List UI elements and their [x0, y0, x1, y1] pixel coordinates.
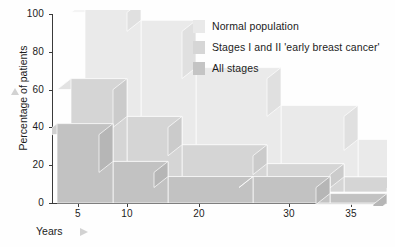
legend-swatch-normal-population [193, 20, 205, 33]
y-tick-label: 80 [14, 47, 44, 57]
y-tick-label: 40 [14, 122, 44, 132]
y-tick-label: 0 [14, 198, 44, 208]
y-tick-label: 100 [14, 9, 44, 19]
legend-item: Normal population [193, 17, 393, 35]
chart-legend: Normal population Stages I and II 'early… [193, 17, 393, 80]
legend-label: Normal population [212, 20, 299, 32]
legend-swatch-all-stages [193, 62, 205, 75]
bar-front-face [168, 177, 253, 203]
chart-container: Percentage of patients Years 02040608010… [0, 0, 395, 247]
bar-front-face [344, 177, 387, 192]
x-tick-label: 30 [274, 209, 304, 219]
y-tick-label: 60 [14, 85, 44, 95]
x-tick-label: 10 [112, 209, 142, 219]
x-tick-label: 35 [336, 209, 366, 219]
bar-front-face [358, 139, 387, 181]
legend-label: All stages [212, 62, 259, 74]
x-tick-label: 20 [184, 209, 214, 219]
legend-item: Stages I and II 'early breast cancer' [193, 38, 393, 56]
x-axis-title: Years [36, 225, 62, 237]
x-axis-arrow-icon [80, 228, 88, 236]
x-tick-label: 5 [63, 209, 93, 219]
y-tick-label: 20 [14, 160, 44, 170]
legend-swatch-stages-i-and-ii [193, 41, 205, 54]
legend-item: All stages [193, 59, 393, 77]
legend-label: Stages I and II 'early breast cancer' [212, 41, 380, 53]
